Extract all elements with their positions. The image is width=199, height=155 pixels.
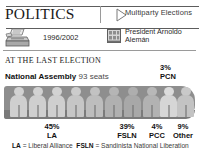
pcn-callout: 3% PCN — [160, 63, 176, 81]
legend-la-text: = Liberal Alliance — [23, 142, 73, 149]
pcn-value: 3% — [160, 63, 176, 72]
header-subtitle: Multiparty Elections — [125, 8, 192, 17]
header: POLITICS Multiparty Elections — [3, 4, 196, 25]
legend-footnote: LA = Liberal Alliance FSLN = Sandinista … — [12, 142, 198, 150]
chart-label-fsln: 39% FSLN — [110, 122, 144, 140]
section-heading: AT THE LAST ELECTION — [5, 56, 101, 65]
assembly-label: National Assembly — [5, 72, 76, 81]
person-figure-icon — [143, 87, 160, 117]
legend-la-key: LA — [12, 142, 21, 149]
la-party: LA — [30, 131, 74, 140]
person-figure-icon — [10, 87, 27, 117]
seat-pictogram-chart — [4, 84, 195, 119]
pcc-party: PCC — [144, 131, 170, 140]
person-figure-icon — [105, 87, 122, 117]
person-figure-icon — [29, 87, 46, 117]
assembly-line: National Assembly 93 seats — [5, 72, 109, 81]
person-figure-icon — [177, 87, 194, 117]
infographic-root: POLITICS Multiparty Elections — [0, 0, 199, 155]
government-building-icon — [107, 29, 121, 44]
person-figure-icon — [124, 87, 141, 117]
ballot-box-icon — [5, 28, 31, 47]
person-figure-icon — [86, 87, 103, 117]
other-party: Other — [169, 131, 197, 140]
election-years: 1996/2002 — [43, 33, 78, 42]
triangle-right-icon — [107, 8, 116, 20]
person-figure-icon — [67, 87, 84, 117]
chart-label-other: 9% Other — [169, 122, 197, 140]
la-value: 45% — [30, 122, 74, 131]
assembly-seats: 93 seats — [79, 72, 109, 81]
person-figure-icon — [48, 87, 65, 117]
section-divider — [3, 50, 196, 51]
figure-row — [4, 84, 195, 119]
fsln-party: FSLN — [110, 131, 144, 140]
other-value: 9% — [169, 122, 197, 131]
page-title: POLITICS — [5, 5, 75, 22]
pcn-party: PCN — [160, 72, 176, 81]
president-name: President Arnoldo Alemán — [125, 28, 199, 45]
chart-label-pcc: 4% PCC — [144, 122, 170, 140]
person-figure-icon — [160, 87, 177, 117]
pcc-value: 4% — [144, 122, 170, 131]
legend-fsln-key: FSLN — [76, 142, 93, 149]
info-row: 1996/2002 President Arnoldo Alemán — [3, 28, 196, 48]
chart-label-la: 45% LA — [30, 122, 74, 140]
fsln-value: 39% — [110, 122, 144, 131]
header-divider — [100, 6, 101, 23]
legend-fsln-text: = Sandinista National Liberation — [95, 142, 188, 149]
